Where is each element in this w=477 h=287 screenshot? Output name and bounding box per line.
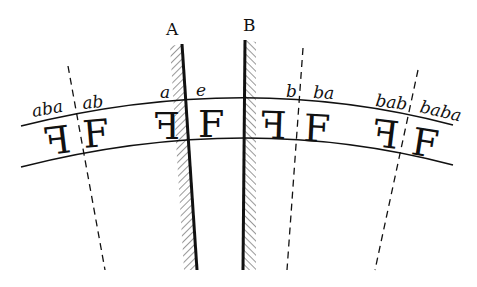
glyph-f-baba: F [409, 119, 442, 167]
mirror-b-label: B [243, 15, 256, 35]
word-label-b: b [286, 81, 297, 101]
glyph-f-identity: F [198, 102, 224, 146]
word-label-a: a [160, 82, 170, 102]
mirror-b-line [243, 40, 245, 270]
glyph-f-ba: F [303, 106, 332, 151]
kaleidoscope-diagram: A B aba ab a e b ba bab baba F F F F F F… [0, 0, 477, 287]
svg-text:F: F [81, 111, 111, 157]
glyph-f-mirrored-a: F [154, 104, 180, 148]
svg-text:F: F [259, 103, 287, 148]
glyph-f-mirrored-bab: F [370, 111, 402, 158]
word-label-ab: ab [81, 91, 104, 113]
svg-text:F: F [303, 106, 332, 151]
word-label-bab: bab [375, 90, 409, 114]
svg-text:F: F [370, 111, 402, 158]
glyph-f-ab: F [81, 111, 111, 157]
glyph-f-mirrored-b: F [259, 103, 287, 148]
word-label-ba: ba [313, 82, 335, 103]
glyph-f-mirrored-aba: F [42, 117, 74, 164]
svg-text:F: F [409, 119, 442, 167]
mirror-a-label: A [165, 19, 179, 39]
word-label-e: e [196, 80, 206, 100]
svg-text:F: F [154, 104, 180, 148]
svg-text:F: F [198, 102, 224, 146]
svg-text:F: F [42, 117, 74, 164]
